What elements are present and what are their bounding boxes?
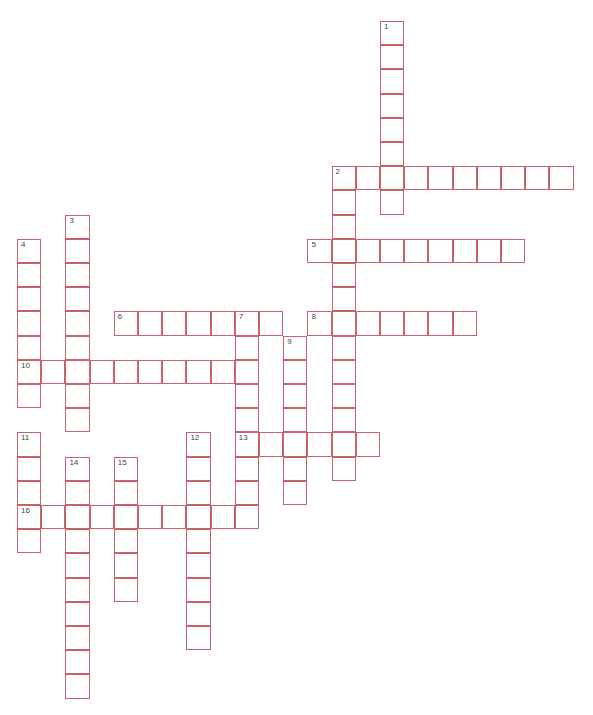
crossword-cell[interactable] [380,69,404,93]
crossword-cell[interactable] [501,239,525,263]
crossword-cell[interactable] [65,384,89,408]
crossword-cell[interactable] [332,239,356,263]
crossword-cell[interactable] [17,287,41,311]
crossword-cell[interactable] [65,287,89,311]
crossword-cell[interactable] [211,360,235,384]
crossword-cell[interactable]: 6 [114,311,138,335]
crossword-cell[interactable]: 9 [283,336,307,360]
crossword-cell[interactable] [332,190,356,214]
crossword-cell[interactable] [380,94,404,118]
crossword-cell[interactable]: 5 [307,239,331,263]
crossword-cell[interactable] [65,239,89,263]
crossword-cell[interactable]: 16 [17,505,41,529]
crossword-cell[interactable] [65,360,89,384]
crossword-cell[interactable]: 14 [65,457,89,481]
crossword-cell[interactable] [186,529,210,553]
crossword-cell[interactable] [162,505,186,529]
crossword-cell[interactable] [17,263,41,287]
crossword-cell[interactable] [453,166,477,190]
crossword-cell[interactable] [17,311,41,335]
crossword-cell[interactable] [186,311,210,335]
crossword-cell[interactable] [356,432,380,456]
crossword-cell[interactable] [380,45,404,69]
crossword-cell[interactable] [428,239,452,263]
crossword-cell[interactable]: 12 [186,432,210,456]
crossword-cell[interactable] [332,384,356,408]
crossword-cell[interactable] [65,578,89,602]
crossword-cell[interactable] [211,505,235,529]
crossword-cell[interactable] [283,408,307,432]
crossword-cell[interactable] [65,626,89,650]
crossword-cell[interactable] [235,408,259,432]
crossword-cell[interactable] [453,311,477,335]
crossword-cell[interactable] [114,553,138,577]
crossword-cell[interactable] [17,529,41,553]
crossword-cell[interactable] [332,432,356,456]
crossword-cell[interactable] [235,505,259,529]
crossword-cell[interactable] [332,336,356,360]
crossword-cell[interactable] [114,529,138,553]
crossword-cell[interactable] [259,311,283,335]
crossword-cell[interactable] [283,457,307,481]
crossword-cell[interactable] [65,336,89,360]
crossword-cell[interactable] [186,602,210,626]
crossword-cell[interactable] [17,457,41,481]
crossword-cell[interactable] [332,311,356,335]
crossword-cell[interactable] [65,674,89,698]
crossword-cell[interactable] [65,505,89,529]
crossword-cell[interactable] [332,263,356,287]
crossword-cell[interactable] [65,263,89,287]
crossword-cell[interactable] [114,481,138,505]
crossword-cell[interactable]: 4 [17,239,41,263]
crossword-cell[interactable] [138,505,162,529]
crossword-cell[interactable] [501,166,525,190]
crossword-cell[interactable] [404,166,428,190]
crossword-cell[interactable] [235,457,259,481]
crossword-cell[interactable]: 11 [17,432,41,456]
crossword-cell[interactable] [114,505,138,529]
crossword-cell[interactable] [65,408,89,432]
crossword-cell[interactable] [186,505,210,529]
crossword-cell[interactable] [283,432,307,456]
crossword-cell[interactable] [41,505,65,529]
crossword-cell[interactable] [356,239,380,263]
crossword-cell[interactable] [332,360,356,384]
crossword-cell[interactable] [380,166,404,190]
crossword-cell[interactable] [356,166,380,190]
crossword-cell[interactable] [235,481,259,505]
crossword-cell[interactable] [90,505,114,529]
crossword-cell[interactable]: 2 [332,166,356,190]
crossword-cell[interactable] [17,336,41,360]
crossword-cell[interactable] [65,481,89,505]
crossword-cell[interactable] [283,384,307,408]
crossword-cell[interactable] [41,360,65,384]
crossword-cell[interactable] [428,166,452,190]
crossword-cell[interactable] [380,142,404,166]
crossword-cell[interactable] [90,360,114,384]
crossword-cell[interactable] [186,578,210,602]
crossword-cell[interactable] [259,432,283,456]
crossword-cell[interactable] [404,311,428,335]
crossword-cell[interactable]: 7 [235,311,259,335]
crossword-cell[interactable] [380,118,404,142]
crossword-cell[interactable] [332,457,356,481]
crossword-cell[interactable] [235,336,259,360]
crossword-cell[interactable] [186,457,210,481]
crossword-cell[interactable] [65,553,89,577]
crossword-cell[interactable]: 15 [114,457,138,481]
crossword-cell[interactable] [332,287,356,311]
crossword-cell[interactable] [283,481,307,505]
crossword-cell[interactable]: 8 [307,311,331,335]
crossword-cell[interactable] [428,311,452,335]
crossword-cell[interactable] [332,408,356,432]
crossword-cell[interactable] [549,166,573,190]
crossword-cell[interactable] [114,360,138,384]
crossword-cell[interactable] [162,311,186,335]
crossword-cell[interactable] [162,360,186,384]
crossword-cell[interactable] [17,384,41,408]
crossword-cell[interactable] [186,360,210,384]
crossword-cell[interactable] [65,311,89,335]
crossword-cell[interactable]: 3 [65,215,89,239]
crossword-cell[interactable] [65,650,89,674]
crossword-cell[interactable] [380,190,404,214]
